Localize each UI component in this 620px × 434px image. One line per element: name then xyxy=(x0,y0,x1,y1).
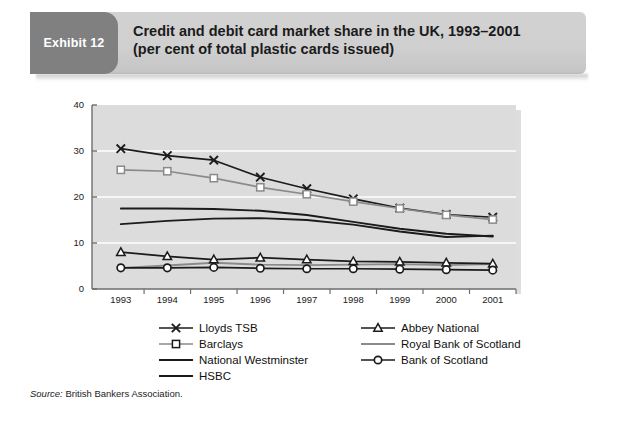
exhibit-title: Credit and debit card market share in th… xyxy=(133,22,573,58)
data-point-circle-marker xyxy=(117,264,124,271)
data-point-triangle-marker xyxy=(210,255,218,263)
y-tick-label: 30 xyxy=(58,145,84,156)
legend-key-circle-marker-line-icon xyxy=(360,353,396,367)
legend-item-bank-of-scotland: Bank of Scotland xyxy=(360,352,521,367)
data-point-circle-marker xyxy=(257,265,264,272)
data-point-square-marker xyxy=(210,175,217,182)
legend-item-national-westminster: National Westminster xyxy=(158,352,308,367)
data-point-circle-marker xyxy=(489,266,496,273)
data-point-square-marker xyxy=(257,184,264,191)
x-tick-label: 2001 xyxy=(473,294,513,305)
x-tick-label: 1995 xyxy=(194,294,234,305)
legend-label: Barclays xyxy=(199,338,243,350)
exhibit-figure: Exhibit 12 Credit and debit card market … xyxy=(0,0,620,434)
data-point-square-marker xyxy=(489,216,496,223)
legend-item-royal-bank-of-scotland: Royal Bank of Scotland xyxy=(360,336,521,351)
legend-key-x-marker-line-icon xyxy=(158,321,194,335)
data-point-circle-marker xyxy=(303,265,310,272)
data-point-circle-marker xyxy=(350,265,357,272)
x-tick-label: 1998 xyxy=(333,294,373,305)
exhibit-number-label: Exhibit 12 xyxy=(43,36,104,50)
data-point-circle-marker xyxy=(443,266,450,273)
exhibit-title-line-1: Credit and debit card market share in th… xyxy=(133,22,573,40)
x-tick-label: 2000 xyxy=(426,294,466,305)
legend-key-gray-plain-line-icon xyxy=(360,337,396,351)
data-point-triangle-marker xyxy=(349,257,357,265)
y-tick-label: 0 xyxy=(58,283,84,294)
x-tick-label: 1993 xyxy=(101,294,141,305)
x-tick-label: 1997 xyxy=(287,294,327,305)
x-tick-label: 1994 xyxy=(147,294,187,305)
y-tick-label: 10 xyxy=(58,237,84,248)
legend-column-left: Lloyds TSBBarclaysNational WestminsterHS… xyxy=(158,320,308,384)
exhibit-number-badge: Exhibit 12 xyxy=(30,12,118,74)
legend-column-right: Abbey NationalRoyal Bank of ScotlandBank… xyxy=(360,320,521,368)
line-chart-svg xyxy=(30,92,586,307)
source-note: Source: British Bankers Association. xyxy=(30,388,183,399)
source-text: British Bankers Association. xyxy=(65,388,182,399)
y-tick-label: 40 xyxy=(58,99,84,110)
legend-label: Bank of Scotland xyxy=(401,354,488,366)
data-point-triangle-marker xyxy=(396,257,404,265)
legend-item-abbey-national: Abbey National xyxy=(360,320,521,335)
y-tick-label: 20 xyxy=(58,191,84,202)
legend-label: Royal Bank of Scotland xyxy=(401,338,521,350)
legend-item-barclays: Barclays xyxy=(158,336,308,351)
data-point-circle-marker xyxy=(164,264,171,271)
series-lloyds-tsb xyxy=(117,145,497,222)
data-point-square-marker xyxy=(303,191,310,198)
data-point-triangle-marker xyxy=(163,252,171,260)
data-point-triangle-marker xyxy=(117,248,125,256)
data-point-circle-marker xyxy=(396,266,403,273)
x-tick-label: 1996 xyxy=(240,294,280,305)
data-point-square-marker xyxy=(164,168,171,175)
legend-label: Abbey National xyxy=(401,322,479,334)
legend-label: Lloyds TSB xyxy=(199,322,258,334)
data-point-triangle-marker xyxy=(442,258,450,266)
data-point-square-marker xyxy=(350,198,357,205)
legend-label: National Westminster xyxy=(199,354,308,366)
source-prefix: Source: xyxy=(30,388,63,399)
data-point-triangle-marker xyxy=(256,253,264,261)
plot-area: 010203040 199319941995199619971998199920… xyxy=(30,92,586,302)
legend-key-square-marker-line-icon xyxy=(158,337,194,351)
banner-drop-shadow xyxy=(36,74,588,81)
data-point-circle-marker xyxy=(210,264,217,271)
data-point-square-marker xyxy=(443,211,450,218)
data-point-square-marker xyxy=(117,166,124,173)
legend-key-triangle-marker-line-icon xyxy=(360,321,396,335)
data-point-triangle-marker xyxy=(303,255,311,263)
series-hsbc xyxy=(121,218,493,237)
legend-key-plain-line-icon xyxy=(158,353,194,367)
x-tick-label: 1999 xyxy=(380,294,420,305)
legend-item-hsbc: HSBC xyxy=(158,368,308,383)
chart-legend: Lloyds TSBBarclaysNational WestminsterHS… xyxy=(30,320,586,382)
figure-body: 010203040 199319941995199619971998199920… xyxy=(30,92,586,414)
legend-key-plain-line-icon xyxy=(158,369,194,383)
legend-item-lloyds-tsb: Lloyds TSB xyxy=(158,320,308,335)
exhibit-title-line-2: (per cent of total plastic cards issued) xyxy=(133,40,573,58)
data-point-square-marker xyxy=(396,205,403,212)
legend-label: HSBC xyxy=(199,370,231,382)
